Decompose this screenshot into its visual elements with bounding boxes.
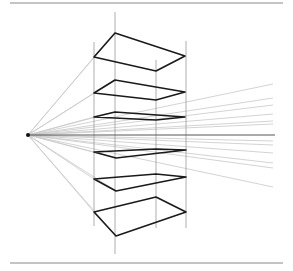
- vanishing-point-dot: [26, 133, 30, 137]
- vertical-guides: [94, 12, 186, 254]
- perspective-diagram: [0, 0, 293, 271]
- convergence-ray: [28, 93, 94, 135]
- vanishing-point: [26, 133, 30, 137]
- plane-quad: [94, 197, 186, 236]
- convergence-ray: [28, 114, 273, 135]
- plane-quad: [94, 174, 186, 191]
- convergence-ray: [28, 135, 273, 187]
- plane-quad: [94, 149, 186, 158]
- plane-quad: [94, 33, 185, 71]
- plane-quad: [94, 80, 185, 100]
- convergence-ray: [28, 121, 273, 135]
